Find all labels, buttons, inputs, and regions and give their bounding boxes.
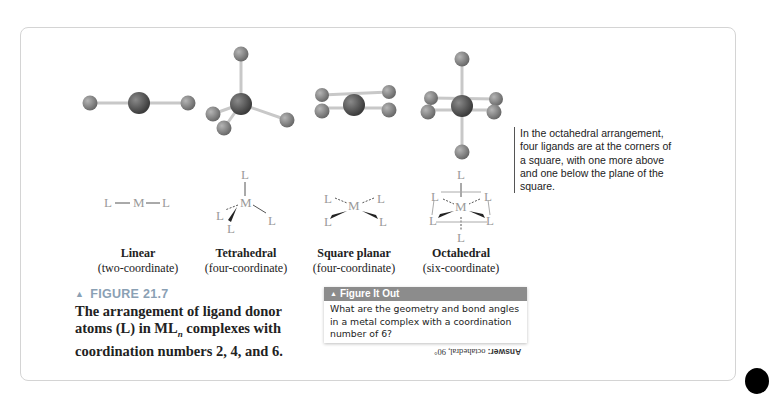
ligand-symbol: L <box>324 191 332 207</box>
answer-label: Answer: <box>487 347 521 357</box>
ligand-symbol: L <box>162 195 170 211</box>
octahedral-model <box>421 52 504 160</box>
geometry-coordination: (four-coordinate) <box>205 261 287 275</box>
figure-number: ▲FIGURE 21.7 <box>75 287 169 301</box>
figure-number-text: FIGURE 21.7 <box>90 287 168 301</box>
metal-symbol: M <box>348 198 360 214</box>
ligand-symbol: L <box>431 189 439 205</box>
metal-symbol: M <box>133 195 145 211</box>
square-planar-model <box>315 85 397 119</box>
answer-text: octahedral, 90° <box>434 347 486 357</box>
geometry-coordination: (six-coordinate) <box>423 261 500 275</box>
geometry-label-square-planar: Square planar (four-coordinate) <box>304 246 404 276</box>
linear-model <box>83 92 196 114</box>
geometry-label-tetrahedral: Tetrahedral (four-coordinate) <box>196 246 296 276</box>
ligand-symbol: L <box>268 213 276 229</box>
ligand-symbol: L <box>429 213 437 229</box>
metal-symbol: M <box>240 195 252 211</box>
geometry-label-octahedral: Octahedral (six-coordinate) <box>411 246 511 276</box>
geometry-coordination: (four-coordinate) <box>313 261 395 275</box>
ligand-symbol: L <box>486 213 494 229</box>
ligand-symbol: L <box>377 191 385 207</box>
tetrahedral-model <box>206 47 295 136</box>
figure-it-out-question: What are the geometry and bond angles in… <box>324 301 527 341</box>
ligand-symbol: L <box>104 195 112 211</box>
metal-symbol: M <box>455 199 467 215</box>
geometry-name: Square planar <box>304 246 404 261</box>
geometry-name: Linear <box>88 246 188 261</box>
ligand-symbol: L <box>216 208 224 224</box>
geometry-label-linear: Linear (two-coordinate) <box>88 246 188 276</box>
ligand-symbol: L <box>227 221 235 237</box>
geometry-name: Octahedral <box>411 246 511 261</box>
ligand-symbol: L <box>457 167 465 183</box>
figure-it-out-answer: Answer: octahedral, 90° <box>434 347 521 357</box>
triangle-icon: ▲ <box>75 289 84 299</box>
octahedral-annotation: In the octahedral arrangement, four liga… <box>514 127 678 193</box>
ligand-symbol: L <box>457 230 465 246</box>
geometry-name: Tetrahedral <box>196 246 296 261</box>
geometry-coordination: (two-coordinate) <box>98 261 179 275</box>
figure-it-out-header: ▲Figure It Out <box>324 287 527 301</box>
figure-it-out-title: Figure It Out <box>340 288 399 299</box>
triangle-icon: ▲ <box>330 290 337 297</box>
ligand-symbol: L <box>324 214 332 230</box>
figure-caption: The arrangement of ligand donor atoms (L… <box>75 303 295 360</box>
figure-it-out-box: ▲Figure It Out What are the geometry and… <box>324 287 527 343</box>
ligand-symbol: L <box>484 189 492 205</box>
ligand-symbol: L <box>241 167 249 183</box>
ligand-symbol: L <box>379 214 387 230</box>
